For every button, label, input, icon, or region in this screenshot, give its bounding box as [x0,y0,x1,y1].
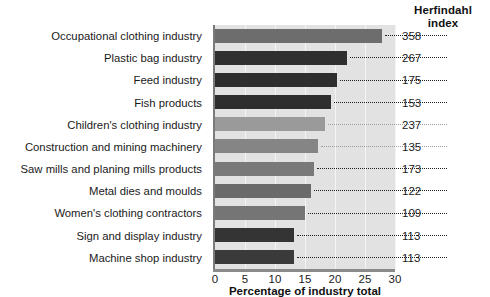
category-label: Fish products [0,92,208,114]
category-label: Machine shop industry [0,247,208,269]
bar [215,228,294,242]
chart-row: Feed industry175 [0,69,490,91]
herfindahl-index-value: 175 [402,69,446,91]
x-tick-20: 20 [323,273,347,285]
category-label: Women's clothing contractors [0,202,208,224]
row-plot-area [215,92,395,114]
row-plot-area [215,247,395,269]
bar [215,206,305,220]
herfindahl-index-value: 153 [402,92,446,114]
category-label: Metal dies and moulds [0,180,208,202]
bar [215,29,382,43]
category-label: Feed industry [0,69,208,91]
herfindahl-index-value: 135 [402,136,446,158]
bar [215,51,347,65]
chart-row: Occupational clothing industry358 [0,25,490,47]
x-tick-25: 25 [353,273,377,285]
x-tick-30: 30 [383,273,407,285]
chart-row: Plastic bag industry267 [0,47,490,69]
category-label: Children's clothing industry [0,114,208,136]
category-label: Plastic bag industry [0,47,208,69]
category-label: Sign and display industry [0,225,208,247]
herfindahl-bar-chart: Herfindahl index Occupational clothing i… [0,0,490,297]
herfindahl-index-value: 122 [402,180,446,202]
herfindahl-index-value: 109 [402,202,446,224]
row-plot-area [215,202,395,224]
bar [215,250,294,264]
herfindahl-index-value: 358 [402,25,446,47]
x-tick-0: 0 [203,273,227,285]
bar [215,162,314,176]
chart-row: Construction and mining machinery135 [0,136,490,158]
herfindahl-index-value: 237 [402,114,446,136]
row-plot-area [215,47,395,69]
x-tick-5: 5 [233,273,257,285]
row-plot-area [215,136,395,158]
row-plot-area [215,25,395,47]
chart-row: Metal dies and moulds122 [0,180,490,202]
category-label: Occupational clothing industry [0,25,208,47]
category-label: Construction and mining machinery [0,136,208,158]
bar [215,73,337,87]
row-plot-area [215,114,395,136]
x-tick-15: 15 [293,273,317,285]
bar [215,117,325,131]
x-tick-10: 10 [263,273,287,285]
x-axis-line [213,269,395,272]
chart-rows: Occupational clothing industry358Plastic… [0,25,490,269]
chart-row: Fish products153 [0,92,490,114]
bar [215,95,331,109]
herfindahl-index-value: 267 [402,47,446,69]
herfindahl-index-value: 113 [402,247,446,269]
category-label: Saw mills and planing mills products [0,158,208,180]
chart-row: Saw mills and planing mills products173 [0,158,490,180]
row-plot-area [215,225,395,247]
chart-row: Sign and display industry113 [0,225,490,247]
herfindahl-index-value: 173 [402,158,446,180]
bar [215,184,311,198]
x-axis-title: Percentage of industry total [195,285,415,297]
bar [215,139,318,153]
row-plot-area [215,158,395,180]
chart-row: Children's clothing industry237 [0,114,490,136]
chart-row: Machine shop industry113 [0,247,490,269]
herfindahl-index-value: 113 [402,225,446,247]
chart-row: Women's clothing contractors109 [0,202,490,224]
herfindahl-header-line1: Herfindahl [400,4,486,17]
row-plot-area [215,69,395,91]
row-plot-area [215,180,395,202]
